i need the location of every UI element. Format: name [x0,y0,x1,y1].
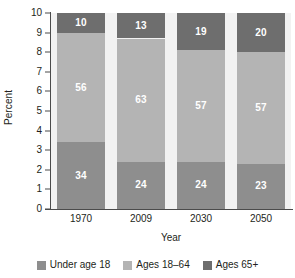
y-tick-label: 10 [18,8,42,18]
bar-segment[interactable]: 24 [177,162,225,209]
bar-segment-label: 13 [135,21,147,31]
bar-segment[interactable]: 63 [117,39,165,162]
x-tick-label: 1970 [51,213,111,225]
bar-column[interactable]: 245719 [177,13,225,209]
bar-segment[interactable]: 57 [177,50,225,162]
bar-segment-label: 34 [75,171,87,181]
bar-segment[interactable]: 23 [237,164,285,209]
legend-item-label: Under age 18 [50,260,111,270]
bar-segment-label: 24 [135,180,147,190]
y-tick-label: 1 [18,184,42,194]
x-axis-title: Year [51,232,291,243]
y-tick-label: 4 [18,126,42,136]
bar-column[interactable]: 345610 [57,13,105,209]
legend-swatch-icon [123,261,132,270]
bar-segment-label: 19 [195,27,207,37]
bar-segment-label: 23 [255,181,267,191]
bar-segment[interactable]: 19 [177,13,225,50]
bar-segment[interactable]: 13 [117,13,165,38]
y-tick-label: 8 [18,47,42,57]
bar-segment-label: 24 [195,180,207,190]
y-axis-title-label: Percent [4,90,15,125]
x-axis-tick-labels: 1970200920302050 [51,213,291,227]
y-axis-tick-labels: 109876543210 [18,13,42,209]
x-tick-label: 2030 [171,213,231,225]
bar-column[interactable]: 235720 [237,13,285,209]
y-tick-label: 2 [18,165,42,175]
y-tick-label: 0 [18,204,42,214]
y-tick-label: 3 [18,145,42,155]
y-tick-label: 9 [18,28,42,38]
y-axis-title: Percent [0,0,18,215]
legend-item[interactable]: Ages 65+ [203,260,259,270]
chart-legend: Under age 18Ages 18–64Ages 65+ [0,256,295,274]
legend-swatch-icon [37,261,46,270]
bar-segment-label: 56 [75,83,87,93]
y-tick-label: 6 [18,86,42,96]
bar-segment-label: 57 [255,103,267,113]
bar-segment[interactable]: 20 [237,13,285,52]
y-tick-label: 7 [18,67,42,77]
bar-segment[interactable]: 56 [57,33,105,143]
legend-item[interactable]: Ages 18–64 [123,260,189,270]
bar-segment[interactable]: 34 [57,142,105,209]
legend-item[interactable]: Under age 18 [37,260,111,270]
bar-column[interactable]: 246313 [117,13,165,209]
bar-segment-label: 20 [255,28,267,38]
bar-segment-label: 57 [195,101,207,111]
bar-segment-label: 63 [135,95,147,105]
plot-area: 345610246313245719235720 [51,13,291,209]
bar-segment[interactable]: 57 [237,52,285,164]
y-tick-label: 5 [18,106,42,116]
x-tick-label: 2050 [231,213,291,225]
stacked-bar-chart: Percent 109876543210 3456102463132457192… [0,0,295,278]
x-tick-label: 2009 [111,213,171,225]
legend-item-label: Ages 18–64 [136,260,189,270]
bar-segment[interactable]: 24 [117,162,165,209]
bar-segment-label: 10 [75,18,87,28]
legend-item-label: Ages 65+ [216,260,259,270]
bar-segment[interactable]: 10 [57,13,105,33]
legend-swatch-icon [203,261,212,270]
x-axis-line [45,209,293,210]
